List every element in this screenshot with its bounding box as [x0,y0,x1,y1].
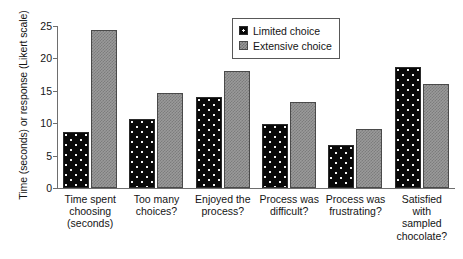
x-axis-category-label-line: (seconds) [58,217,122,229]
bar-group [123,26,189,188]
x-axis-category-label: Time spentchoosing(seconds) [57,193,123,255]
bar-extensive [356,129,382,188]
bar-limited [395,67,421,188]
x-axis-category-label-line: Satisfied [390,193,454,205]
y-axis-tick-mark [53,26,57,27]
x-axis-category-label-line: Too many [124,193,188,205]
y-axis-tick-mark [53,156,57,157]
x-axis-category-label-line: Process was [257,193,321,205]
bar-limited [196,97,222,188]
bar-limited [262,124,288,188]
x-axis-category-label-line: Process was [323,193,387,205]
legend-swatch-icon-extensive [239,41,248,50]
x-axis-category-label: Process wasfrustrating? [322,193,388,255]
x-axis-category-label-line: frustrating? [323,205,387,217]
y-axis-tick-mark [53,188,57,189]
x-axis-category-label: Enjoyed theprocess? [190,193,256,255]
y-axis-tick-label: 0 [46,183,52,193]
x-axis-category-label-line: difficult? [257,205,321,217]
y-axis-tick-label: 25 [40,21,52,31]
y-axis-tick-label: 15 [40,86,52,96]
x-axis-category-label-line: choosing [58,205,122,217]
legend-label-extensive: Extensive choice [253,40,332,52]
x-axis-category-label-line: choices? [124,205,188,217]
legend-item-limited-choice: Limited choice [239,23,332,38]
y-axis-tick-label: 5 [46,151,52,161]
y-axis-tick-label: 20 [40,53,52,63]
x-axis-category-label-line: chocolate? [390,230,454,242]
legend-item-extensive-choice: Extensive choice [239,38,332,53]
bar-extensive [224,71,250,188]
bar-group [389,26,455,188]
chart-legend: Limited choice Extensive choice [232,18,340,59]
y-axis-tick-mark [53,58,57,59]
y-axis-tick-mark [53,123,57,124]
y-axis-tick-labels: 2520151050 [26,0,52,259]
bar-chart: Time (seconds) or response (Likert scale… [0,0,463,259]
x-axis-category-label-line: process? [191,205,255,217]
x-axis-category-label: Satisfiedwithsampledchocolate? [389,193,455,255]
x-axis-category-label-line: sampled [390,217,454,229]
x-axis-category-label-line: with [390,205,454,217]
bar-extensive [423,84,449,188]
bar-group [57,26,123,188]
y-axis-tick-mark [53,91,57,92]
bar-limited [63,132,89,188]
legend-swatch-icon-limited [239,26,248,35]
legend-label-limited: Limited choice [253,25,320,37]
x-axis-category-label: Process wasdifficult? [256,193,322,255]
bar-limited [129,119,155,188]
x-axis-category-label-line: Enjoyed the [191,193,255,205]
x-axis-category-label-line: Time spent [58,193,122,205]
bar-extensive [91,30,117,188]
bar-extensive [157,93,183,188]
y-axis-tick-label: 10 [40,118,52,128]
bar-extensive [290,102,316,188]
x-axis-category-label: Too manychoices? [123,193,189,255]
bar-limited [328,145,354,188]
x-axis-line [57,188,455,189]
x-axis-category-labels: Time spentchoosing(seconds)Too manychoic… [57,193,455,255]
